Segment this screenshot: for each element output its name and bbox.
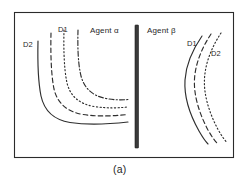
figure-container: D1 D2 Agent α Agent β D1 D2 (a)	[0, 0, 248, 182]
figure-caption: (a)	[113, 164, 126, 175]
figure-frame	[15, 13, 234, 158]
figure-svg	[0, 0, 248, 182]
curve-label-d2-beta: D2	[211, 50, 221, 58]
curve-label-d2-alpha: D2	[23, 41, 33, 49]
curve-label-d1-alpha: D1	[58, 26, 68, 34]
agent-alpha-label: Agent α	[90, 27, 119, 35]
agent-beta-label: Agent β	[147, 27, 176, 35]
agent-divider-bar	[135, 25, 139, 148]
curve-label-d1-beta: D1	[187, 40, 197, 48]
